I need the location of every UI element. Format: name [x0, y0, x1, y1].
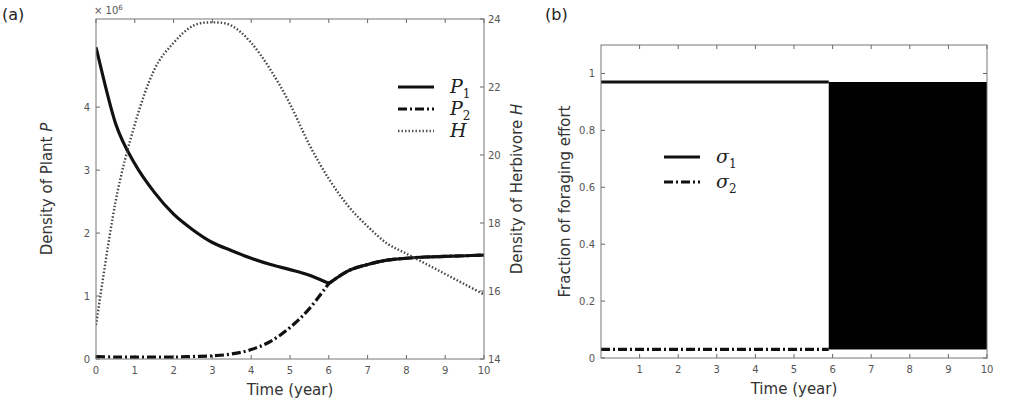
y-tick-label: 0.4 [579, 239, 595, 250]
panel-label: (b) [545, 5, 568, 24]
y-right-tick-label: 22 [488, 82, 501, 93]
y-tick-label: 0 [589, 353, 595, 364]
x-tick-label: 8 [403, 365, 409, 376]
x-tick-label: 8 [907, 364, 913, 375]
series-line-H [96, 22, 484, 325]
chart-panel-a: (a)01234567891001234141618202224Time (ye… [2, 4, 526, 399]
legend-label: σ2 [716, 170, 737, 196]
x-tick-label: 1 [636, 364, 642, 375]
x-axis-label: Time (year) [246, 381, 334, 399]
y-multiplier-label: × 106 [94, 4, 123, 16]
y-tick-label: 0.8 [579, 125, 595, 136]
x-tick-label: 10 [981, 364, 994, 375]
series-group [601, 82, 987, 349]
x-tick-label: 2 [170, 365, 176, 376]
figure: (a)01234567891001234141618202224Time (ye… [0, 0, 1027, 420]
y-right-tick-label: 16 [488, 286, 501, 297]
y-tick-label: 1 [84, 291, 90, 302]
x-tick-label: 7 [364, 365, 370, 376]
chart-panel-b: (b)1234567891000.20.40.60.81Time (year)F… [545, 5, 993, 398]
y-tick-label: 0.2 [579, 296, 595, 307]
y-right-tick-label: 24 [488, 14, 501, 25]
panel-label: (a) [2, 5, 24, 24]
y-right-axis-label-var: H [508, 104, 526, 115]
x-tick-label: 9 [945, 364, 951, 375]
y-axis-label-var: P [38, 122, 56, 132]
x-tick-label: 4 [752, 364, 758, 375]
x-tick-label: 6 [326, 365, 332, 376]
oscillation-region [829, 82, 987, 349]
series-line-P1 [96, 47, 484, 283]
legend-label: H [449, 119, 467, 141]
y-right-tick-label: 20 [488, 150, 501, 161]
y-tick-label: 4 [84, 102, 90, 113]
legend-subscript: 1 [729, 157, 737, 171]
y-multiplier-exp: 6 [118, 4, 123, 12]
y-axis-label: Density of Plant P [38, 122, 56, 256]
x-tick-label: 9 [442, 365, 448, 376]
y-right-tick-label: 14 [488, 354, 501, 365]
x-tick-label: 5 [287, 365, 293, 376]
x-tick-label: 4 [248, 365, 254, 376]
x-tick-label: 1 [132, 365, 138, 376]
y-tick-label: 3 [84, 165, 90, 176]
y-tick-label: 0 [84, 354, 90, 365]
plot-frame [96, 19, 484, 359]
x-tick-label: 6 [829, 364, 835, 375]
x-tick-label: 2 [675, 364, 681, 375]
y-tick-label: 1 [589, 68, 595, 79]
x-tick-label: 3 [209, 365, 215, 376]
y-tick-label: 2 [84, 228, 90, 239]
y-tick-label: 0.6 [579, 182, 595, 193]
legend-subscript: 1 [463, 87, 471, 101]
x-tick-label: 10 [478, 365, 491, 376]
x-tick-label: 3 [714, 364, 720, 375]
y-right-tick-label: 18 [488, 218, 501, 229]
legend-label: σ1 [716, 145, 737, 171]
legend-subscript: 2 [729, 182, 737, 196]
y-right-axis-label: Density of Herbivore H [508, 104, 526, 275]
x-tick-label: 5 [791, 364, 797, 375]
x-tick-label: 7 [868, 364, 874, 375]
y-axis-label: Fraction of foraging effort [556, 105, 574, 297]
x-axis-label: Time (year) [750, 380, 838, 398]
x-tick-label: 0 [93, 365, 99, 376]
series-group [96, 22, 484, 357]
